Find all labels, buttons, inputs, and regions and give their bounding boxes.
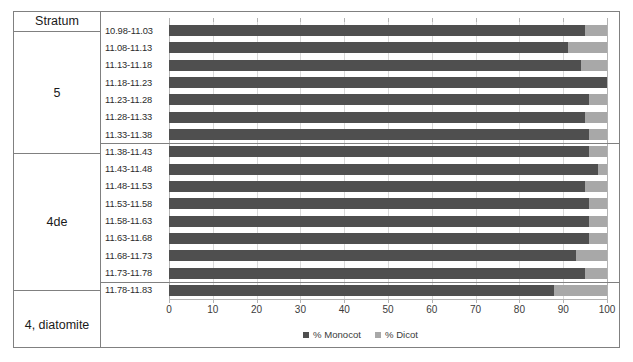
bar-row: 11.73-11.78 xyxy=(101,264,620,281)
bar-segment-monocot xyxy=(169,285,554,296)
bar-row-label: 11.43-11.48 xyxy=(101,161,163,178)
bar-segment-dicot xyxy=(585,268,607,279)
x-tick-label-30: 30 xyxy=(295,304,306,315)
group-separator-0 xyxy=(101,143,620,144)
bar-segment-dicot xyxy=(568,42,607,53)
bar-segment-dicot xyxy=(554,285,607,296)
bar-segment-monocot xyxy=(169,164,598,175)
bar-row-label: 11.23-11.28 xyxy=(101,91,163,108)
stratum-table: Stratum 5 4de 4, diatomite xyxy=(13,11,101,348)
bar-row: 10.98-11.03 xyxy=(101,22,620,39)
bar-track xyxy=(169,250,607,261)
bar-track xyxy=(169,129,607,140)
bar-segment-monocot xyxy=(169,60,581,71)
bar-row: 11.48-11.53 xyxy=(101,178,620,195)
bar-row: 11.13-11.18 xyxy=(101,57,620,74)
bar-track xyxy=(169,25,607,36)
bar-row-label: 11.78-11.83 xyxy=(101,282,163,299)
bar-segment-monocot xyxy=(169,198,589,209)
bar-segment-dicot xyxy=(581,60,607,71)
bar-segment-monocot xyxy=(169,112,585,123)
bar-row: 11.28-11.33 xyxy=(101,109,620,126)
square-icon xyxy=(303,332,309,338)
bar-segment-dicot xyxy=(589,94,607,105)
bar-row: 11.08-11.13 xyxy=(101,39,620,56)
chart-panel: 10.98-11.0311.08-11.1311.13-11.1811.18-1… xyxy=(101,11,620,348)
bar-track xyxy=(169,268,607,279)
bar-rows-container: 10.98-11.0311.08-11.1311.13-11.1811.18-1… xyxy=(101,22,620,299)
bar-segment-dicot xyxy=(585,25,607,36)
group-separator-1 xyxy=(101,282,620,283)
bar-track xyxy=(169,285,607,296)
bar-segment-dicot xyxy=(589,198,607,209)
bar-row-label: 11.28-11.33 xyxy=(101,109,163,126)
bar-track xyxy=(169,94,607,105)
stratum-cell-5: 5 xyxy=(13,32,101,154)
bar-row: 11.18-11.23 xyxy=(101,74,620,91)
bar-track xyxy=(169,112,607,123)
x-axis-line xyxy=(169,299,608,300)
bar-row-label: 11.73-11.78 xyxy=(101,264,163,281)
bar-row-label: 11.58-11.63 xyxy=(101,212,163,229)
bar-row: 11.53-11.58 xyxy=(101,195,620,212)
bar-row: 11.68-11.73 xyxy=(101,247,620,264)
bar-segment-dicot xyxy=(589,129,607,140)
x-axis-tick-labels: 0102030405060708090100 xyxy=(169,304,607,320)
bar-segment-dicot xyxy=(585,181,607,192)
bar-row-label: 11.18-11.23 xyxy=(101,74,163,91)
bar-row: 11.58-11.63 xyxy=(101,212,620,229)
x-tick-label-60: 60 xyxy=(426,304,437,315)
bar-row-label: 11.38-11.43 xyxy=(101,143,163,160)
legend-item-monocot[interactable]: % Monocot xyxy=(303,329,361,340)
x-tick-label-0: 0 xyxy=(166,304,172,315)
x-tick-label-50: 50 xyxy=(382,304,393,315)
bar-row: 11.33-11.38 xyxy=(101,126,620,143)
bar-row: 11.43-11.48 xyxy=(101,161,620,178)
x-tick-label-70: 70 xyxy=(470,304,481,315)
bar-segment-dicot xyxy=(585,112,607,123)
bar-segment-dicot xyxy=(589,146,607,157)
bar-row-label: 11.13-11.18 xyxy=(101,57,163,74)
bar-row-label: 11.33-11.38 xyxy=(101,126,163,143)
bar-track xyxy=(169,233,607,244)
bar-track xyxy=(169,60,607,71)
chart-legend: % Monocot% Dicot xyxy=(101,329,620,340)
x-tick-label-90: 90 xyxy=(558,304,569,315)
bar-track xyxy=(169,146,607,157)
legend-label: % Monocot xyxy=(313,329,361,340)
bar-segment-monocot xyxy=(169,146,589,157)
bar-row: 11.78-11.83 xyxy=(101,282,620,299)
bar-row-label: 11.63-11.68 xyxy=(101,230,163,247)
bar-segment-monocot xyxy=(169,216,589,227)
bar-segment-dicot xyxy=(598,164,607,175)
bar-track xyxy=(169,216,607,227)
x-tick-label-40: 40 xyxy=(339,304,350,315)
stratum-cell-4-diatomite: 4, diatomite xyxy=(13,291,101,358)
x-tick-label-10: 10 xyxy=(207,304,218,315)
bar-segment-monocot xyxy=(169,25,585,36)
bar-track xyxy=(169,42,607,53)
bar-segment-dicot xyxy=(589,216,607,227)
bar-row-label: 11.68-11.73 xyxy=(101,247,163,264)
bar-segment-monocot xyxy=(169,233,589,244)
bar-row: 11.38-11.43 xyxy=(101,143,620,160)
stacked-bar-chart-figure: Stratum 5 4de 4, diatomite 10.98-11.0311… xyxy=(0,0,633,362)
bar-segment-monocot xyxy=(169,94,589,105)
bar-track xyxy=(169,198,607,209)
bar-row: 11.63-11.68 xyxy=(101,230,620,247)
bar-row-label: 10.98-11.03 xyxy=(101,22,163,39)
x-tick-label-20: 20 xyxy=(251,304,262,315)
bar-segment-dicot xyxy=(576,250,607,261)
stratum-cell-4de: 4de xyxy=(13,154,101,291)
bar-row: 11.23-11.28 xyxy=(101,91,620,108)
bar-segment-monocot xyxy=(169,129,589,140)
bar-segment-monocot xyxy=(169,268,585,279)
bar-row-label: 11.48-11.53 xyxy=(101,178,163,195)
legend-label: % Dicot xyxy=(385,329,418,340)
bar-segment-monocot xyxy=(169,77,607,88)
bar-segment-monocot xyxy=(169,42,568,53)
x-tick-label-100: 100 xyxy=(599,304,616,315)
legend-item-dicot[interactable]: % Dicot xyxy=(375,329,418,340)
bar-row-label: 11.53-11.58 xyxy=(101,195,163,212)
bar-row-label: 11.08-11.13 xyxy=(101,39,163,56)
